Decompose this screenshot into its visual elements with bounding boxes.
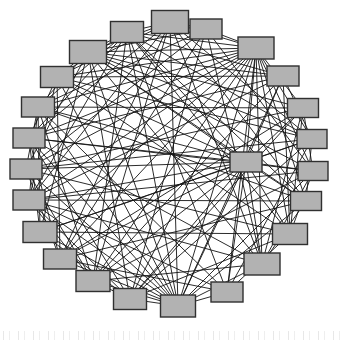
graph-edge — [42, 163, 230, 169]
graph-node[interactable]: n6 — [298, 162, 328, 181]
graph-node[interactable]: n8 — [273, 224, 308, 245]
graph-node[interactable]: n1 — [190, 19, 222, 39]
network-graph-figure: n0n1n2n3n4n5n6n7n8n9n10n11n12n13n14n15n1… — [0, 0, 340, 341]
graph-edge — [74, 76, 268, 77]
graph-node[interactable]: n10 — [211, 282, 243, 302]
graph-node[interactable]: n18 — [13, 128, 45, 148]
graph-node[interactable]: n22 — [111, 22, 144, 43]
graph-edge — [107, 172, 234, 271]
graph-node[interactable]: n17 — [10, 159, 42, 179]
graph-node[interactable]: n16 — [13, 190, 45, 210]
graph-node[interactable]: n21 — [70, 41, 107, 64]
graph-node[interactable]: n14 — [44, 249, 77, 269]
graph-node[interactable]: n20 — [41, 67, 74, 88]
graph-edge — [144, 26, 152, 28]
graph-edge — [107, 48, 239, 51]
graph-node[interactable]: n5 — [297, 130, 327, 149]
graph-node[interactable]: n15 — [23, 222, 57, 243]
graph-node[interactable]: n3 — [267, 66, 299, 86]
graph-node[interactable]: n0 — [152, 11, 189, 34]
graph-node[interactable]: n9 — [244, 253, 280, 275]
graph-edge — [45, 207, 211, 284]
graph-node[interactable]: n13 — [76, 271, 110, 292]
graph-node[interactable]: n7 — [291, 192, 322, 211]
graph-node[interactable]: n2 — [238, 37, 274, 59]
graph-canvas: n0n1n2n3n4n5n6n7n8n9n10n11n12n13n14n15n1… — [0, 0, 340, 341]
graph-node[interactable]: n23 — [230, 152, 262, 172]
graph-edge — [208, 39, 259, 253]
graph-edge — [196, 297, 212, 301]
graph-node[interactable]: n19 — [22, 97, 55, 117]
graph-edge — [147, 301, 161, 303]
graph-edge — [90, 64, 128, 289]
graph-node[interactable]: n11 — [161, 295, 196, 317]
graph-node[interactable]: n4 — [288, 99, 319, 118]
graph-node[interactable]: n12 — [114, 289, 147, 310]
graph-edge — [55, 107, 288, 108]
